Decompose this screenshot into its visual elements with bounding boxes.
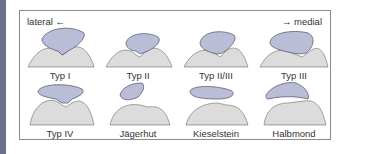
type-label: Kieselstein — [178, 128, 254, 139]
patella-shape-icon — [178, 81, 254, 129]
side-accent-bar — [0, 0, 6, 154]
patella-shape-icon — [256, 23, 332, 71]
patella-shape-icon — [100, 81, 176, 129]
type-label: Typ II — [100, 70, 176, 81]
type-typ-3: Typ III — [256, 23, 332, 83]
type-label: Typ IV — [22, 128, 98, 139]
type-halbmond: Halbmond — [256, 81, 332, 141]
patella-shape-icon — [178, 23, 254, 71]
patella-shape-icon — [22, 23, 98, 71]
patella-shape-icon — [256, 81, 332, 129]
type-label: Typ I — [22, 70, 98, 81]
type-kieselstein: Kieselstein — [178, 81, 254, 141]
patella-shape-icon — [100, 23, 176, 71]
type-label: Jägerhut — [100, 128, 176, 139]
type-typ-1: Typ I — [22, 23, 98, 83]
type-typ-4: Typ IV — [22, 81, 98, 141]
patella-types-figure: lateral ← → medial Typ I Typ II Typ II/I… — [19, 10, 331, 140]
patella-shape-icon — [22, 81, 98, 129]
type-label: Typ II/III — [178, 70, 254, 81]
type-typ-2: Typ II — [100, 23, 176, 83]
type-jaegerhut: Jägerhut — [100, 81, 176, 141]
type-label: Typ III — [256, 70, 332, 81]
type-typ-2-3: Typ II/III — [178, 23, 254, 83]
type-label: Halbmond — [256, 128, 332, 139]
